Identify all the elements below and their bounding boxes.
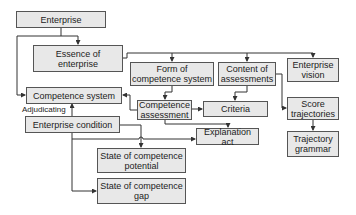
node-form-of-competence-system: Form of competence system: [130, 62, 214, 86]
node-essence-of-enterprise: Essence of enterprise: [33, 45, 123, 72]
node-criteria: Criteria: [203, 101, 268, 117]
node-explanation-act: Explanation act: [196, 128, 259, 145]
node-state-of-competence-gap: State of competence gap: [97, 178, 186, 204]
node-enterprise-vision: Enterprise vision: [287, 58, 339, 82]
node-enterprise: Enterprise: [16, 11, 106, 28]
node-competence-assessment: Competence assessment: [137, 100, 192, 120]
node-state-of-competence-potential: State of competence potential: [97, 148, 186, 173]
node-enterprise-condition: Enterprise condition: [25, 116, 120, 133]
node-trajectory-grammar: Trajectory grammar: [287, 131, 339, 157]
node-content-of-assessments: Content of assessments: [218, 62, 276, 86]
node-score-trajectories: Score trajectories: [287, 97, 339, 120]
node-competence-system: Competence system: [26, 87, 122, 104]
edge-label-adjudicating: Adjudicating: [22, 105, 66, 114]
